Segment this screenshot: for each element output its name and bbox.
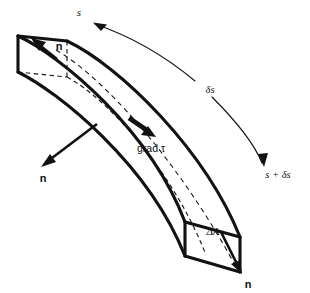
normal-side-left-shaft: [48, 124, 97, 161]
label-normal-bottom-right: n: [245, 278, 252, 290]
label-s: s: [77, 6, 81, 18]
arc-lower-arrowhead: [258, 153, 268, 167]
label-delta-area: ΔA: [205, 225, 219, 237]
normal-vector-side-left-group: [41, 124, 97, 167]
label-delta-s: δs: [206, 84, 215, 95]
label-s-plus-delta-s: s + δs: [265, 169, 290, 180]
label-normal-top-left: n: [56, 40, 63, 52]
curved-beam-diagram: s δs s + δs grad τ ΔA n n n: [0, 0, 310, 293]
figure-root: s δs s + δs grad τ ΔA n n n: [0, 0, 310, 293]
label-normal-side-left: n: [40, 172, 47, 184]
arc-upper-arrowhead: [93, 23, 107, 32]
arc-lower-curve: [212, 97, 262, 163]
label-grad-tau: grad τ: [137, 142, 166, 154]
